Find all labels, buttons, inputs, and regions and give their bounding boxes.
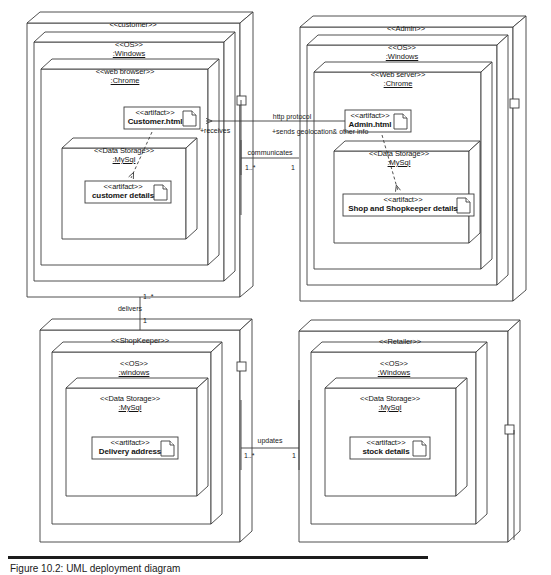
edge-mult-delivers-bottom: 1 [143, 317, 147, 326]
node-label-shopkeeper-os-instance: :windows [119, 369, 150, 378]
edge-label-http-protocol: http protocol [273, 113, 312, 122]
artifact-label-stock-details-name: stock details [362, 448, 409, 457]
port-admin-right[interactable] [510, 99, 519, 108]
port-customer-right[interactable] [237, 96, 246, 105]
port-retailer-right[interactable] [505, 425, 514, 434]
node-label-customer-browser-instance: :Chrome [111, 77, 140, 86]
node-label-admin-server-instance: :Chrome [384, 80, 413, 89]
node-label-customer-storage-instance: :MySql [113, 156, 136, 165]
node-label-retailer: <<Retailer>> [379, 338, 421, 347]
edge-label-receives: +receives [200, 127, 230, 136]
node-label-admin-storage-instance: :MySql [388, 159, 411, 168]
port-shopkeeper-right[interactable] [237, 362, 246, 371]
artifact-label-customer-html-name: Customer.html [128, 118, 183, 127]
node-label-admin-os-instance: :Windows [386, 53, 419, 62]
edge-label-communicates: communicates [247, 149, 292, 158]
edge-mult-delivers-top: 1..* [143, 293, 154, 302]
edge-mult-communicates-left: 1..* [245, 164, 256, 173]
edge-mult-updates-left: 1..* [244, 452, 255, 461]
node-label-admin: <<Admin>> [387, 25, 425, 34]
edge-label-updates: updates [258, 437, 283, 446]
deployment-diagram-canvas: <<customer>> <<OS>> :Windows <<web brows… [0, 0, 551, 575]
caption-rule [8, 556, 428, 559]
edge-mult-communicates-right: 1 [291, 164, 295, 173]
artifact-label-shop-details-name: Shop and Shopkeeper details [348, 205, 457, 214]
node-label-retailer-os-instance: :Windows [378, 369, 411, 378]
node-label-shopkeeper: <<ShopKeeper>> [111, 337, 169, 346]
artifact-label-customer-details-name: customer details [92, 192, 154, 201]
diagram-vector-layer [0, 0, 551, 575]
node-label-customer-os-instance: :Windows [113, 50, 146, 59]
node-label-customer: <<customer>> [109, 21, 156, 30]
artifact-label-delivery-address-name: Delivery address [99, 448, 161, 457]
edge-mult-updates-right: 1 [292, 452, 296, 461]
edge-label-delivers: delivers [118, 305, 142, 314]
figure-caption: Figure 10.2: UML deployment diagram [10, 563, 180, 574]
node-label-shopkeeper-storage-instance: :MySql [119, 404, 142, 413]
edge-label-sends-geolocation: +sends geolocation& other info [272, 128, 368, 137]
node-label-retailer-storage-instance: :MySql [379, 404, 402, 413]
